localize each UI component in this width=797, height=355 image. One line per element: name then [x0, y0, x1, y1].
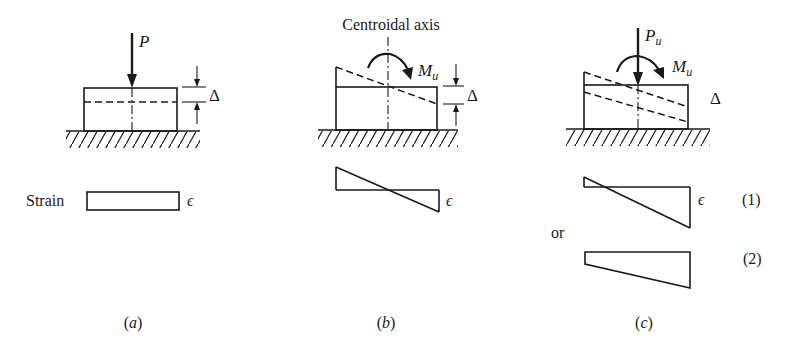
strain-diagram-a	[87, 192, 179, 210]
strain-symbol-c: ϵ	[698, 191, 705, 208]
ground-support-b	[318, 130, 458, 147]
strain-distribution-figure: P Δ Strain ϵ (a) Centroidal axis	[0, 0, 797, 355]
block-c	[584, 85, 688, 129]
delta-dimension-b	[443, 64, 464, 126]
strain-symbol-a: ϵ	[187, 192, 194, 209]
block-a	[84, 88, 177, 131]
strain-diagram-b	[336, 167, 439, 212]
delta-dimension-a	[182, 66, 206, 124]
strain-diagram-c1	[584, 177, 690, 228]
caption-c: (c)	[635, 314, 653, 332]
alternative-word: or	[551, 224, 565, 241]
panel-b: Centroidal axis Mu Δ	[318, 16, 478, 332]
delta-label-a: Δ	[209, 86, 220, 105]
load-arrow-icon-a	[127, 33, 137, 88]
strain-case-label-2: (2)	[743, 250, 762, 268]
load-label-c: Pu	[644, 26, 661, 48]
displaced-line-c	[584, 92, 688, 122]
delta-label-b: Δ	[467, 86, 478, 105]
load-label-a: P	[138, 32, 149, 51]
strain-symbol-b: ϵ	[446, 192, 453, 209]
moment-arrow-icon-b	[368, 54, 413, 80]
panel-a: P Δ Strain ϵ (a)	[26, 32, 220, 332]
panel-c: Pu Mu Δ ϵ (1) or (2) (c)	[551, 26, 762, 332]
strain-case-label-1: (1)	[742, 191, 761, 209]
ground-support-a	[66, 131, 200, 148]
block-b	[336, 87, 437, 130]
delta-label-c: Δ	[710, 89, 721, 108]
moment-label-c: Mu	[671, 57, 692, 79]
moment-label-b: Mu	[417, 61, 438, 83]
strain-diagram-c2	[585, 252, 690, 288]
centroidal-axis-label: Centroidal axis	[342, 16, 439, 33]
ground-support-c	[566, 129, 710, 146]
strain-row-label: Strain	[26, 192, 64, 209]
caption-b: (b)	[377, 314, 396, 332]
caption-a: (a)	[124, 314, 143, 332]
